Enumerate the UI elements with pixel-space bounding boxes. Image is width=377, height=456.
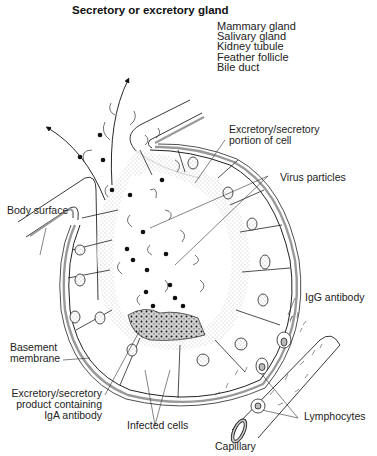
body-surface [18, 177, 98, 300]
label-basement-membrane: Basement membrane [10, 342, 60, 364]
label-infected-cells: Infected cells [127, 420, 188, 431]
label-excretory-product: Excretory/secretory product containing I… [5, 388, 102, 421]
secretion-arrow-left [48, 128, 105, 200]
label-capillary: Capillary [215, 441, 256, 452]
label-virus-particles: Virus particles [280, 172, 346, 183]
label-lymphocytes: Lymphocytes [304, 411, 365, 422]
label-igg-antibody: IgG antibody [305, 292, 365, 303]
capillary-dashes [215, 316, 322, 412]
label-body-surface: Body surface [7, 205, 68, 216]
label-excretory-portion: Excretory/secretory portion of cell [229, 124, 319, 146]
